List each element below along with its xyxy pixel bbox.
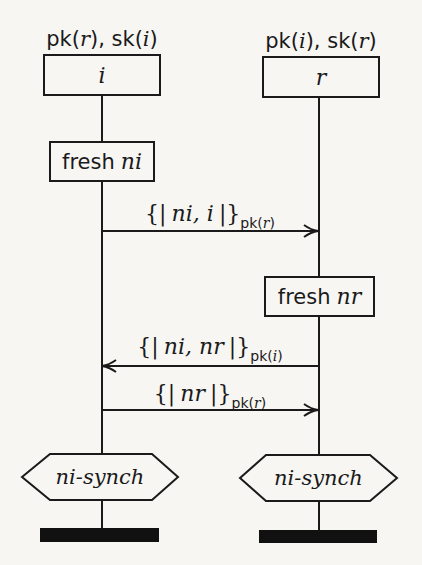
close-brace: |}	[219, 201, 240, 226]
key-arg: i	[273, 348, 277, 364]
open-brace: {|	[145, 201, 166, 226]
key-fn: pk	[250, 348, 267, 364]
claim-label-i: ni-synch	[22, 454, 178, 500]
open-brace: {|	[154, 381, 175, 406]
message-label-1: {| ni, i |}pk(r)	[110, 201, 310, 229]
key-arg: r	[263, 215, 270, 231]
message-content: ni, i	[172, 201, 214, 226]
key-fn: pk	[232, 395, 249, 411]
encryption-key: pk(r)	[240, 215, 275, 231]
encryption-key: pk(i)	[250, 348, 282, 364]
message-content: ni, nr	[164, 334, 224, 359]
message-content: nr	[180, 381, 205, 406]
role-end-bar-i	[40, 528, 159, 542]
encryption-key: pk(r)	[232, 395, 267, 411]
close-brace: |}	[229, 334, 250, 359]
open-brace: {|	[137, 334, 158, 359]
key-arg: r	[254, 395, 261, 411]
key-fn: pk	[240, 215, 257, 231]
close-brace: |}	[210, 381, 231, 406]
role-end-bar-r	[259, 530, 377, 543]
message-label-2: {| ni, nr |}pk(i)	[110, 334, 310, 362]
claim-label-r: ni-synch	[240, 455, 397, 501]
message-label-3: {| nr |}pk(r)	[110, 381, 310, 409]
